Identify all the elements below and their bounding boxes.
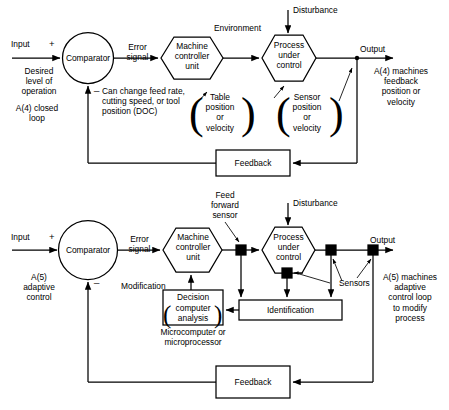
bottom-feed-forward-sensor-label: Feed forward sensor [198,190,252,221]
top-sensor-bracket-text: Sensor position or velocity [283,92,331,133]
top-desired-level-note: Desired level of operation [5,66,73,97]
top-process-label: Process under control [261,40,317,71]
bottom-modification-label: Modification [121,281,166,291]
top-plus-sign: + [49,38,55,49]
bottom-output-label: Output [370,235,395,245]
bottom-error-signal-label: Error signal [120,234,159,254]
bottom-machine-unit-label: Machine controller unit [165,232,221,263]
bottom-sensor-square-mid [326,245,336,255]
top-minus-sign: _ [94,81,99,92]
bottom-sensor-square-process [282,268,292,278]
top-machine-unit-label: Machine controller unit [164,41,220,72]
bottom-identification-label: Identification [239,305,342,315]
bottom-sensors-label: Sensors [339,278,370,288]
bottom-input-label: Input [11,232,30,242]
top-input-label: Input [11,39,30,49]
top-output-label: Output [360,44,385,54]
top-change-note: Can change feed rate, cutting speed, or … [102,86,185,117]
top-side-note: A(4) closed loop [3,103,71,123]
block-diagram-figure: Input + Desired level of operation A(4) … [0,0,449,410]
top-table-bracket-text: Table position or velocity [196,92,244,133]
top-disturbance-label: Disturbance [293,5,338,15]
top-environment-label: Environment [214,23,261,33]
bottom-sensor-leader-3 [296,273,330,283]
top-output-note: A(4) machines feedback position or veloc… [357,66,445,107]
bottom-comparator-label: Comparator [59,245,117,255]
top-comparator-label: Comparator [59,53,117,63]
top-feedback-label: Feedback [216,158,290,168]
bottom-process-label: Process under control [261,232,316,263]
bottom-disturbance-label: Disturbance [293,198,338,208]
bottom-plus-sign: + [49,231,55,242]
top-sensor-bracket-close: ) [329,92,344,136]
bottom-sensor-square-output [368,245,378,255]
bottom-micro-note: Microcomputer or microprocessor [131,327,255,347]
bottom-side-note: A(5) adaptive control [5,272,73,303]
bottom-decision-paren-text: computer analysis [169,303,217,323]
bottom-minus-sign: _ [94,273,99,284]
top-error-signal-label: Error signal [118,42,157,62]
bottom-output-note: A(5) machines adaptive control loop to m… [371,272,449,323]
bottom-sensor-leader-2 [357,259,371,278]
bottom-feedback-label: Feedback [216,377,290,387]
bottom-ff-leader [225,222,239,242]
bottom-sensor-square-feedforward [236,245,246,255]
